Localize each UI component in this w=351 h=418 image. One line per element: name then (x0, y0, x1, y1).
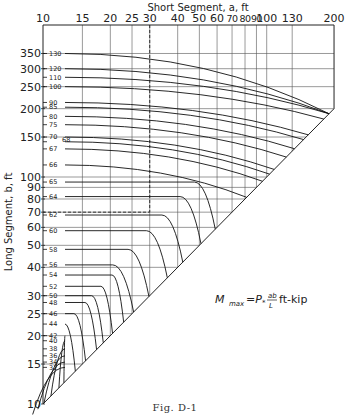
contour-curve-120 (65, 69, 329, 114)
x-axis-title: Short Segment, a, ft (147, 2, 248, 13)
y-tick-label: 200 (20, 103, 41, 116)
y-tick-label: 50 (27, 239, 41, 252)
contour-label: 100 (49, 83, 61, 91)
y-tick-label: 20 (27, 330, 41, 343)
contour-curve-48 (65, 302, 97, 349)
x-tick-label: 30 (143, 12, 157, 25)
y-tick-label: 30 (27, 290, 41, 303)
contour-label: 62 (49, 211, 57, 219)
contour-label: 68 (62, 136, 70, 144)
contour-label: 75 (49, 121, 57, 129)
y-tick-label: 100 (20, 171, 41, 184)
contour-curve-130 (65, 53, 329, 113)
contour-curve-85 (65, 107, 304, 139)
contour-curve-66 (65, 165, 247, 197)
contour-curve-70 (65, 137, 274, 169)
contour-label: 65 (49, 178, 57, 186)
contour-curve-64 (65, 197, 201, 244)
y-tick-label: 15 (27, 358, 41, 371)
contour-label: 130 (49, 50, 61, 58)
contour-curve-54 (65, 275, 124, 322)
contour-label: 120 (49, 65, 61, 73)
figure-caption: Fig. D-1 (153, 402, 198, 413)
formula-annotation: M max =P * ab L ft-kip (215, 292, 307, 310)
contour-curve-56 (65, 265, 134, 312)
x-tick-label: 70 (227, 13, 239, 24)
contour-label: 64 (49, 193, 57, 201)
contour-label: 32 (49, 364, 57, 372)
formula-sub: max (229, 300, 245, 308)
x-tick-label: 200 (324, 12, 345, 25)
x-tick-label: 80 (239, 13, 251, 24)
contour-label: 67 (49, 145, 57, 153)
y-tick-label: 40 (27, 261, 41, 274)
y-tick-label: 150 (20, 131, 41, 144)
contour-label: 85 (49, 103, 57, 111)
chart-frame (43, 25, 334, 404)
contour-label: 60 (49, 227, 57, 235)
x-tick-label: 20 (103, 12, 117, 25)
x-tick-label: 130 (282, 12, 303, 25)
formula-num: ab (268, 292, 277, 300)
contour-label: 110 (49, 74, 61, 82)
plot-area: 1015202530405060708090100130200101520253… (20, 12, 345, 414)
contour-label: 40 (49, 337, 57, 345)
y-tick-label: 25 (27, 308, 41, 321)
contour-curve-75 (65, 125, 286, 157)
x-tick-label: 50 (192, 12, 206, 25)
contour-curve-52 (65, 286, 113, 333)
x-tick-label: 60 (210, 12, 224, 25)
contour-label: 48 (49, 299, 57, 307)
moment-chart: 1015202530405060708090100130200101520253… (0, 0, 351, 418)
contour-curve-58 (65, 249, 149, 296)
formula-unit: ft-kip (279, 293, 307, 306)
contour-label: 70 (49, 133, 57, 141)
formula-star: * (262, 299, 266, 307)
y-tick-label: 300 (20, 63, 41, 76)
contour-label: 52 (49, 283, 57, 291)
contour-label: 54 (49, 271, 57, 279)
formula-den: L (269, 302, 273, 310)
x-tick-label: 25 (125, 12, 139, 25)
y-tick-label: 250 (20, 81, 41, 94)
formula-m: M (215, 293, 225, 306)
contour-label: 46 (49, 310, 57, 318)
contour-curve-65 (65, 182, 215, 229)
contour-curve-90 (65, 102, 308, 134)
y-tick-label: 70 (27, 206, 41, 219)
y-tick-label: 80 (27, 193, 41, 206)
y-tick-label: 350 (20, 47, 41, 60)
contour-curve-42 (64, 336, 65, 383)
x-tick-label: 40 (171, 12, 185, 25)
contour-label: 66 (49, 161, 57, 169)
y-axis-title: Long Segment, b, ft (3, 173, 14, 272)
contour-label: 58 (49, 246, 57, 254)
x-tick-label: 15 (75, 12, 89, 25)
contour-curve-67 (65, 149, 262, 181)
contour-label: 56 (49, 261, 57, 269)
contour-curve-60 (65, 231, 167, 278)
formula-eq: =P (246, 293, 262, 306)
contour-label: 44 (49, 320, 57, 328)
y-tick-label: 60 (27, 221, 41, 234)
contour-curve-68 (65, 142, 270, 174)
contour-label: 80 (49, 113, 57, 121)
x-tick-label: 100 (256, 12, 277, 25)
x-tick-label: 10 (36, 12, 50, 25)
